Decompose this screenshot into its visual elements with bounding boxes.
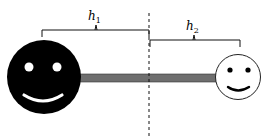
small-white-smiley-icon bbox=[216, 55, 261, 100]
label-h2: h2 bbox=[186, 19, 199, 35]
label-h1: h1 bbox=[88, 9, 101, 25]
bracket-h1 bbox=[42, 25, 149, 37]
large-black-smiley-icon bbox=[7, 40, 81, 114]
connecting-bar bbox=[78, 74, 218, 82]
diagram-canvas: h1 h2 bbox=[0, 0, 265, 136]
bracket-h2 bbox=[150, 35, 240, 47]
